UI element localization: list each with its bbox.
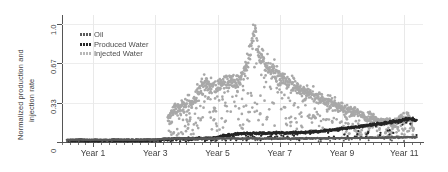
legend-label-injected-water: Injected Water — [94, 49, 143, 59]
legend-item-produced-water[interactable]: Produced Water — [80, 40, 149, 50]
x-tick-label: Year 5 — [205, 148, 230, 158]
legend-marker-oil — [80, 33, 91, 36]
legend-item-injected-water[interactable]: Injected Water — [80, 49, 149, 59]
chart-figure: Normalized production and injection rate… — [0, 0, 448, 172]
legend-marker-injected-water — [80, 52, 91, 55]
scatter-plot-area — [0, 0, 448, 172]
x-tick-label: Year 11 — [390, 148, 419, 158]
legend-item-oil[interactable]: Oil — [80, 30, 149, 40]
x-tick-label: Year 3 — [143, 148, 168, 158]
legend-marker-produced-water — [80, 43, 91, 46]
x-tick-label: Year 7 — [268, 148, 293, 158]
x-tick-label: Year 1 — [81, 148, 106, 158]
legend-label-produced-water: Produced Water — [94, 40, 149, 50]
legend-label-oil: Oil — [94, 30, 103, 40]
x-tick-label: Year 9 — [330, 148, 355, 158]
chart-legend: Oil Produced Water Injected Water — [80, 30, 149, 59]
